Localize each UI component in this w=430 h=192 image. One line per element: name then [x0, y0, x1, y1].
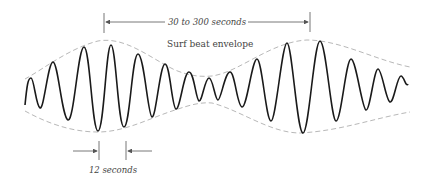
envelope-label: Surf beat envelope — [167, 39, 253, 49]
beat-period-dimension: 30 to 300 seconds — [104, 12, 310, 33]
wave-period-dimension: 12 seconds — [73, 141, 152, 175]
wave-train — [25, 41, 408, 133]
envelope-lower — [25, 103, 410, 133]
beat-period-label: 30 to 300 seconds — [168, 17, 247, 27]
surf-beat-diagram: 30 to 300 seconds Surf beat envelope 12 … — [0, 0, 430, 192]
wave-period-label: 12 seconds — [89, 165, 138, 175]
